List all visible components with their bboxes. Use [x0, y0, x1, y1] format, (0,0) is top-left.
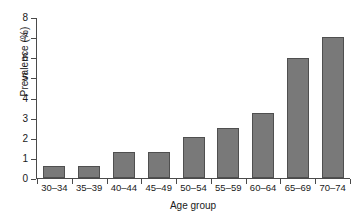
y-axis-tick: 8	[31, 18, 36, 19]
bar-slot	[37, 18, 72, 178]
bar-slot	[107, 18, 142, 178]
y-axis-tick-label: 6	[22, 51, 28, 64]
bar	[183, 137, 205, 178]
bar-slot	[141, 18, 176, 178]
plot-area: 012345678	[36, 18, 350, 179]
x-axis-tick-label: 70–74	[315, 182, 350, 194]
y-axis-tick-label: 7	[22, 31, 28, 44]
y-axis-tick: 2	[31, 139, 36, 140]
y-axis-tick: 7	[31, 38, 36, 39]
bar	[252, 113, 274, 178]
bar	[78, 166, 100, 178]
y-axis-tick-label: 0	[22, 172, 28, 185]
y-axis-tick: 4	[31, 99, 36, 100]
y-axis-tick-label: 5	[22, 71, 28, 84]
y-axis-tick: 1	[31, 159, 36, 160]
bar	[113, 152, 135, 178]
y-axis-tick-label: 1	[22, 152, 28, 165]
y-axis-tick: 6	[31, 58, 36, 59]
x-axis-tick-labels: 30–3435–3940–4445–4950–5455–5960–6465–69…	[37, 182, 350, 194]
x-axis-title: Age group	[36, 200, 350, 211]
x-axis-tick-label: 65–69	[280, 182, 315, 194]
x-axis-tick-label: 45–49	[141, 182, 176, 194]
bar	[148, 152, 170, 178]
x-axis-tick-label: 40–44	[107, 182, 142, 194]
bar	[217, 128, 239, 178]
x-axis-tick-label: 55–59	[211, 182, 246, 194]
y-axis-tick-label: 8	[22, 11, 28, 24]
bar	[287, 58, 309, 178]
x-axis-tick-label: 35–39	[72, 182, 107, 194]
bar-slot	[315, 18, 350, 178]
x-axis-tick-mark	[350, 179, 351, 184]
y-axis-tick: 3	[31, 119, 36, 120]
bar	[43, 166, 65, 178]
y-axis-tick: 5	[31, 78, 36, 79]
bar-slot	[72, 18, 107, 178]
x-axis-tick-label: 60–64	[246, 182, 281, 194]
bar-series	[37, 18, 350, 178]
bar-slot	[246, 18, 281, 178]
y-axis-tick: 0	[31, 179, 36, 180]
x-axis-tick-label: 50–54	[176, 182, 211, 194]
y-axis-tick-label: 3	[22, 112, 28, 125]
bar-slot	[176, 18, 211, 178]
x-axis-tick-label: 30–34	[37, 182, 72, 194]
y-axis-tick-label: 2	[22, 132, 28, 145]
bar-chart-figure: Prevalence (%) 012345678 30–3435–3940–44…	[0, 0, 360, 222]
bar-slot	[280, 18, 315, 178]
bar	[322, 37, 344, 178]
y-axis-tick-label: 4	[22, 92, 28, 105]
bar-slot	[211, 18, 246, 178]
